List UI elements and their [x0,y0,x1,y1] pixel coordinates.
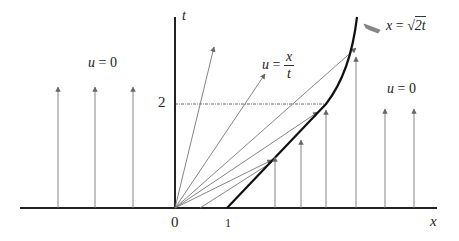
t-axis-label: t [182,8,186,24]
left-region-u: u [88,55,95,70]
x-axis-label: x [430,213,437,230]
characteristics-diagram [0,0,459,241]
right-region-label: u = 0 [387,81,416,97]
fan-region-fraction: x t [284,50,294,81]
t-tick-2-label: 2 [158,94,166,111]
fan-ray-arrow [175,160,272,208]
left-region-eq: = 0 [99,55,117,70]
shock-sqrt-arg: 2t [415,16,426,33]
fan-ray [200,162,272,208]
fan-ray-arrow [175,74,265,208]
sqrt-symbol: √ [407,18,415,33]
shock-curve-label: x = √2t [386,18,426,34]
right-region-u: u [387,81,394,96]
origin-label: 0 [171,214,179,231]
fan-ray-arrow [175,47,214,208]
shock-curve [227,17,357,208]
right-region-eq: = 0 [398,81,416,96]
fan-region-label: u = x t [262,50,294,81]
fan-region-u: u [262,57,269,72]
x-tick-1-label: 1 [225,216,231,231]
fan-ray-arrow [175,112,318,208]
fan-region-den: t [287,66,291,81]
left-region-label: u = 0 [88,55,117,71]
fan-region-num: x [284,50,294,66]
shock-eq: = [396,18,404,33]
shock-x: x [386,18,392,33]
fan-region-eq: = [273,57,281,72]
pointer-icon [364,24,380,33]
